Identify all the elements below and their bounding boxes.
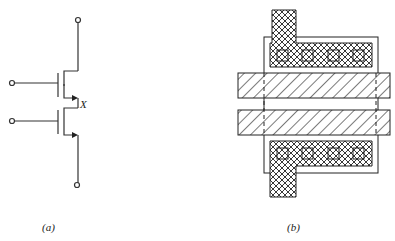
panel-a-caption: (a) (42, 221, 55, 233)
drain-terminal (76, 18, 81, 23)
figure-canvas (0, 0, 395, 241)
source-terminal (75, 183, 80, 188)
arrow-icon (72, 95, 78, 101)
layout (238, 10, 390, 197)
gate-terminal-bottom (10, 119, 15, 124)
schematic (10, 18, 81, 188)
arrow-icon (72, 132, 78, 138)
panel-b-caption: (b) (287, 221, 300, 233)
gate-terminal-top (10, 81, 15, 86)
node-x-label: X (80, 98, 87, 110)
